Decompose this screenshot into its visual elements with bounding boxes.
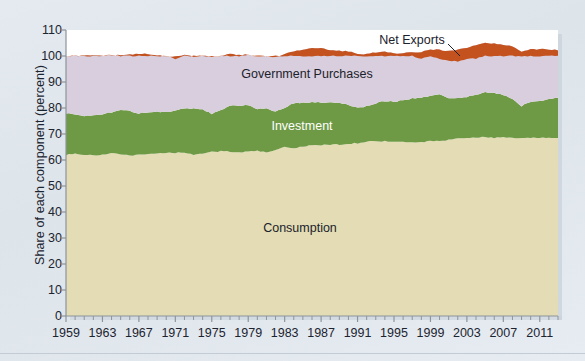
stacked-area-plot [0, 0, 585, 361]
series-label-government-purchases: Government Purchases [241, 67, 372, 81]
figure: Share of each component (percent) 010203… [0, 0, 585, 361]
series-label-net-exports: Net Exports [379, 33, 444, 47]
series-label-consumption: Consumption [263, 221, 337, 235]
series-label-investment: Investment [271, 119, 332, 133]
